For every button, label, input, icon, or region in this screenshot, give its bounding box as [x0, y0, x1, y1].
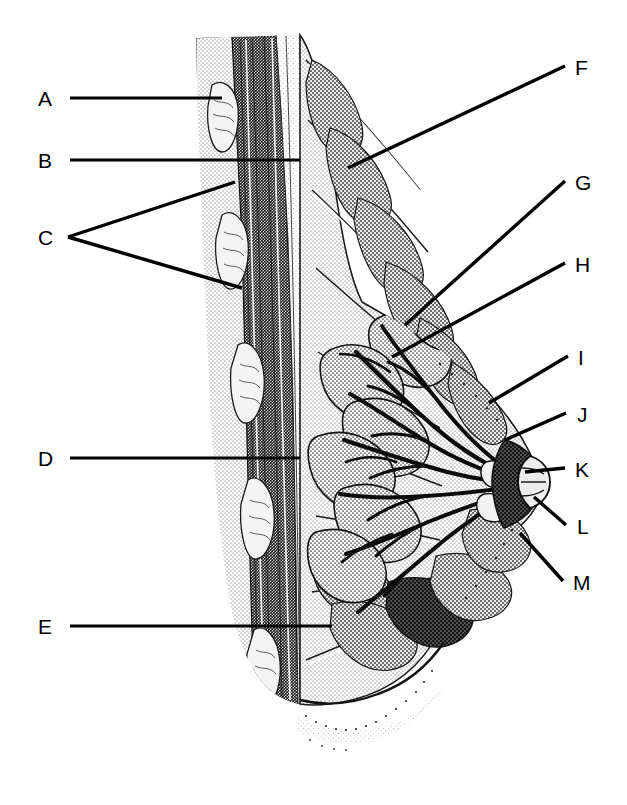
- label-c[interactable]: C: [38, 227, 53, 248]
- label-l[interactable]: L: [577, 516, 589, 537]
- label-j[interactable]: J: [577, 404, 588, 425]
- breast-sagittal-section-illustration: [0, 0, 627, 805]
- label-k[interactable]: K: [575, 459, 589, 480]
- label-g[interactable]: G: [575, 172, 591, 193]
- label-d[interactable]: D: [38, 448, 53, 469]
- leader-line-I: [489, 356, 568, 403]
- label-b[interactable]: B: [38, 150, 52, 171]
- rib-section-3: [231, 343, 265, 423]
- label-a[interactable]: A: [38, 88, 52, 109]
- leader-line-G: [405, 181, 565, 325]
- rib-section-1: [208, 83, 239, 152]
- label-e[interactable]: E: [38, 616, 52, 637]
- label-f[interactable]: F: [575, 57, 588, 78]
- label-i[interactable]: I: [578, 347, 584, 368]
- rib-section-2: [216, 213, 249, 289]
- figure-page: A B C D E F G H I J K L M: [0, 0, 627, 805]
- chest-wall-group: [196, 34, 304, 709]
- leader-line-F: [348, 66, 565, 168]
- label-h[interactable]: H: [575, 254, 590, 275]
- label-m[interactable]: M: [573, 572, 591, 593]
- breast-group: [296, 35, 550, 751]
- leader-line-L: [534, 497, 566, 525]
